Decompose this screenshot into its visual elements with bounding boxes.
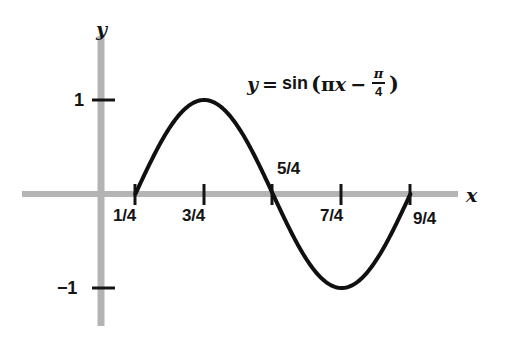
equation-function-name: sin <box>282 73 308 94</box>
sine-graph-figure: y x 1/4 3/4 5/4 7/4 9/4 1 −1 y = sin ( π… <box>0 0 523 338</box>
fraction-numerator: π <box>373 67 385 81</box>
equation-annotation: y = sin ( π x − π 4 ) <box>247 68 399 99</box>
equation-open-paren: ( <box>311 71 321 96</box>
equation-equals: = <box>262 73 278 95</box>
x-axis-label: x <box>466 186 477 205</box>
equation-fraction: π 4 <box>372 67 385 98</box>
fraction-denominator: 4 <box>374 85 383 99</box>
x-tick-label-7-4: 7/4 <box>320 207 343 224</box>
equation-pi-symbol: π <box>321 73 335 95</box>
y-axis-label: y <box>96 20 107 39</box>
equation-lhs: y <box>247 73 258 95</box>
equation-x-symbol: x <box>335 73 346 95</box>
x-tick-label-3-4: 3/4 <box>182 207 205 224</box>
y-tick-label-positive-1: 1 <box>74 91 84 109</box>
y-tick-label-negative-1: −1 <box>57 279 77 297</box>
x-tick-label-5-4: 5/4 <box>277 160 300 177</box>
x-tick-label-9-4: 9/4 <box>413 210 436 227</box>
equation-close-paren: ) <box>389 71 399 96</box>
x-tick-label-1-4: 1/4 <box>113 207 136 224</box>
plot-canvas <box>0 0 523 338</box>
equation-minus: − <box>350 73 366 95</box>
